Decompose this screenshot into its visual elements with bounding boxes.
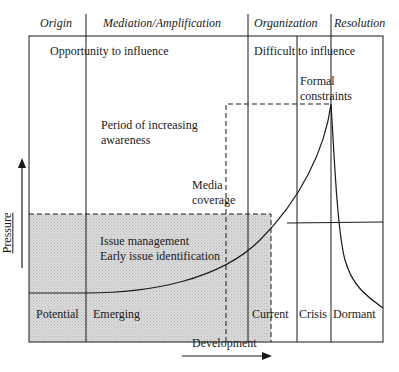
- plateau-line: [287, 222, 383, 223]
- media-coverage-label-1: Media: [192, 178, 223, 192]
- stage-current: Current: [252, 307, 289, 321]
- stage-dormant: Dormant: [333, 307, 376, 321]
- early-issue-identification-label: Early issue identification: [100, 249, 220, 263]
- opportunity-to-influence-label: Opportunity to influence: [50, 44, 169, 58]
- stage-potential: Potential: [36, 307, 79, 321]
- stage-emerging: Emerging: [93, 307, 140, 321]
- media-coverage-label-2: coverage: [192, 193, 235, 207]
- pressure-axis-label: Pressure: [0, 213, 14, 254]
- arrow-right-icon: [262, 352, 272, 360]
- phase-resolution: Resolution: [334, 16, 385, 30]
- development-axis-label: Development: [192, 336, 257, 350]
- arrow-up-icon: [18, 158, 26, 168]
- period-awareness-label-2: awareness: [101, 133, 150, 147]
- stage-crisis: Crisis: [299, 307, 327, 321]
- phase-mediation-amplification: Mediation/Amplification: [103, 16, 221, 30]
- formal-constraints-label-1: Formal: [300, 74, 335, 88]
- issue-management-label: Issue management: [100, 234, 189, 248]
- difficult-to-influence-label: Difficult to influence: [254, 44, 355, 58]
- period-awareness-label-1: Period of increasing: [101, 118, 198, 132]
- phase-organization: Organization: [254, 16, 318, 30]
- phase-origin: Origin: [40, 16, 72, 30]
- formal-constraints-label-2: constraints: [300, 89, 352, 103]
